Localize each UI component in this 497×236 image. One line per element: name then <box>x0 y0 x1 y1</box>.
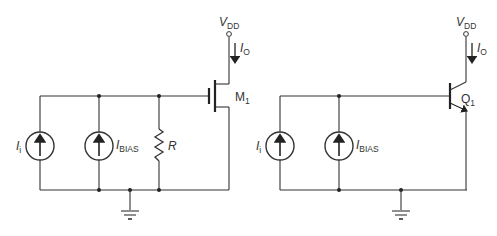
current-source-ii-icon <box>26 132 54 160</box>
vdd-label: VDD <box>219 15 239 31</box>
q1-label: Q1 <box>461 92 475 108</box>
resistor-label: R <box>168 139 177 153</box>
ii-label: Ii <box>256 139 261 155</box>
junction-dot <box>97 188 101 192</box>
current-source-ibias-icon <box>85 132 113 160</box>
right-circuit: Ii IBIAS Q1 VDD IO <box>256 15 487 219</box>
current-source-ii-icon <box>266 132 294 160</box>
ground-icon <box>392 190 410 219</box>
ibias-label: IBIAS <box>116 138 139 154</box>
junction-dot <box>337 94 341 98</box>
current-source-ibias-icon <box>325 132 353 160</box>
resistor-icon <box>155 129 163 161</box>
ibias-label: IBIAS <box>356 138 379 154</box>
left-circuit: Ii IBIAS R M1 VDD <box>16 15 250 219</box>
npn-transistor-icon <box>450 37 466 190</box>
ground-icon <box>121 190 139 219</box>
nmos-transistor-icon <box>209 37 229 190</box>
junction-dot <box>157 94 161 98</box>
ii-label: Ii <box>16 139 21 155</box>
junction-dot <box>97 94 101 98</box>
m1-label: M1 <box>235 90 250 106</box>
junction-dot <box>157 188 161 192</box>
io-label: IO <box>477 41 487 57</box>
io-label: IO <box>240 41 250 57</box>
vdd-terminal-icon <box>227 32 232 37</box>
vdd-label: VDD <box>456 15 476 31</box>
junction-dot <box>337 188 341 192</box>
vdd-terminal-icon <box>464 32 469 37</box>
